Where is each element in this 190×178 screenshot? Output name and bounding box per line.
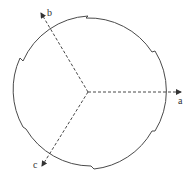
axis-a-label: a — [178, 95, 183, 106]
axis-c-line — [42, 92, 88, 166]
axis-c-label: c — [33, 159, 38, 170]
notched-circle-diagram: a b c — [0, 0, 190, 178]
axis-b-label: b — [47, 7, 52, 18]
circle-outline — [13, 16, 166, 169]
axis-b-line — [41, 13, 88, 92]
